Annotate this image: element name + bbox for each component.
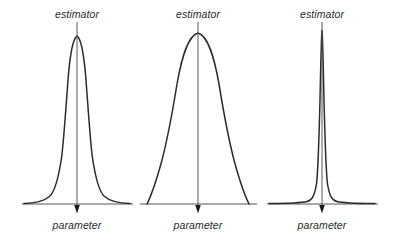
panel-1-estimator-label: estimator <box>55 8 99 20</box>
panel-3-arrowhead-icon <box>319 205 325 214</box>
panel-2-plot <box>130 0 270 240</box>
panel-2: estimator parameter <box>130 0 270 240</box>
panel-1-plot <box>0 0 140 240</box>
estimator-distributions-figure: estimator parameter estimator parameter … <box>0 0 396 240</box>
panel-1-arrowhead-icon <box>74 205 80 214</box>
panel-3: estimator parameter <box>256 0 396 240</box>
panel-3-estimator-label: estimator <box>300 8 344 20</box>
panel-1: estimator parameter <box>0 0 140 240</box>
panel-3-plot <box>256 0 396 240</box>
panel-2-arrowhead-icon <box>195 205 201 214</box>
panel-2-estimator-label: estimator <box>176 8 220 20</box>
panel-3-parameter-label: parameter <box>298 219 347 231</box>
panel-2-parameter-label: parameter <box>174 219 223 231</box>
panel-1-parameter-label: parameter <box>53 219 102 231</box>
